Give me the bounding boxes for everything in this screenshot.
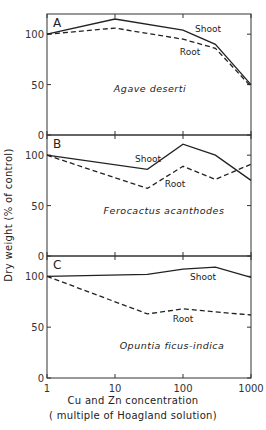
series-shoot-line <box>47 267 251 277</box>
shoot-label: Shoot <box>190 272 216 282</box>
y-tick-label: 100 <box>25 150 44 161</box>
panel-a: 050100AShootRootAgave deserti <box>25 14 251 141</box>
panel-letter: A <box>53 16 62 30</box>
y-tick-label: 50 <box>31 201 44 212</box>
y-tick-label: 0 <box>38 251 44 262</box>
shoot-label: Shoot <box>195 24 221 34</box>
species-label: Ferocactus acanthodes <box>104 205 225 216</box>
series-root-line <box>47 28 251 87</box>
x-tick-label: 100 <box>173 383 192 394</box>
y-tick-label: 100 <box>25 29 44 40</box>
y-axis-label-container: Dry weight (% of control) <box>0 150 18 280</box>
figure: 050100AShootRootAgave deserti050100BShoo… <box>0 0 266 430</box>
x-tick-label: 10 <box>109 383 122 394</box>
y-tick-label: 0 <box>38 130 44 141</box>
root-label: Root <box>180 47 201 57</box>
y-tick-label: 50 <box>31 80 44 91</box>
species-label: Agave deserti <box>113 83 186 94</box>
root-label: Root <box>173 314 194 324</box>
panel-b: 050100BShootRootFerocactus acanthodes <box>25 135 251 262</box>
x-axis-ticks: 1101001000 <box>44 383 264 394</box>
x-axis-label: Cu and Zn concentration <box>0 395 266 406</box>
x-tick-label: 1000 <box>238 383 263 394</box>
y-axis-label: Dry weight (% of control) <box>3 148 14 281</box>
panel-c: 050100CShootRootOpuntia ficus-indica <box>25 256 251 384</box>
y-tick-label: 100 <box>25 271 44 282</box>
series-root-line <box>47 276 251 315</box>
panel-letter: C <box>53 258 61 272</box>
x-tick-label: 1 <box>44 383 50 394</box>
panel-letter: B <box>53 137 61 151</box>
x-axis-sublabel: ( multiple of Hoagland solution) <box>0 410 266 421</box>
y-tick-label: 50 <box>31 322 44 333</box>
shoot-label: Shoot <box>135 154 161 164</box>
species-label: Opuntia ficus-indica <box>120 340 225 351</box>
root-label: Root <box>165 179 186 189</box>
